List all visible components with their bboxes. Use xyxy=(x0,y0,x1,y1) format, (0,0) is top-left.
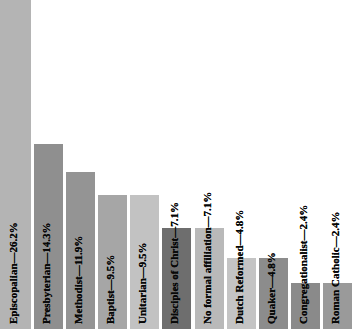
bar-label: Baptist—9.5% xyxy=(104,255,116,324)
bar-label: No formal affiliation—7.1% xyxy=(201,192,213,324)
chart-plot-area: Episcopalian—26.2%Presbyterian—14.3%Meth… xyxy=(0,0,353,329)
bar: Presbyterian—14.3% xyxy=(34,144,63,329)
bar: Congregationalist—2.4% xyxy=(291,283,320,329)
bar: No formal affiliation—7.1% xyxy=(195,228,224,329)
bar: Roman Catholic—2.4% xyxy=(323,283,352,329)
bar-label: Disciples of Christ—7.1% xyxy=(168,202,180,324)
bar-label: Unitarian—9.5% xyxy=(136,242,148,324)
bar-label: Dutch Reformed—4.8% xyxy=(233,210,245,324)
bar-label: Presbyterian—14.3% xyxy=(40,222,52,324)
bar: Methodist—11.9% xyxy=(66,172,95,329)
bar: Dutch Reformed—4.8% xyxy=(227,258,256,329)
bar: Unitarian—9.5% xyxy=(130,195,159,329)
bar-label: Quaker—4.8% xyxy=(265,252,277,324)
bar: Baptist—9.5% xyxy=(98,195,127,329)
bar-label: Episcopalian—26.2% xyxy=(7,222,19,324)
bar: Quaker—4.8% xyxy=(259,258,288,329)
bar-label: Roman Catholic—2.4% xyxy=(329,212,341,324)
bar-chart-figure: Episcopalian—26.2%Presbyterian—14.3%Meth… xyxy=(0,0,353,329)
bar: Disciples of Christ—7.1% xyxy=(162,228,191,329)
bar-label: Methodist—11.9% xyxy=(72,236,84,324)
bar: Episcopalian—26.2% xyxy=(0,0,31,329)
bar-label: Congregationalist—2.4% xyxy=(297,205,309,324)
